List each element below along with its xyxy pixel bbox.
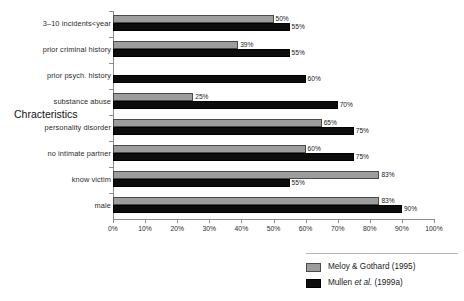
bar <box>113 23 290 31</box>
legend-separator <box>306 253 458 254</box>
value-tick <box>434 219 435 223</box>
bar <box>113 93 193 101</box>
legend-label: Meloy & Gothard (1995) <box>328 262 415 272</box>
bar-value-label: 60% <box>308 145 321 153</box>
bar-value-label: 90% <box>404 205 417 213</box>
value-tick-label: 70% <box>323 225 353 233</box>
value-tick-label: 60% <box>291 225 321 233</box>
value-tick <box>241 219 242 223</box>
category-label: substance abuse <box>3 97 111 106</box>
category-label: prior criminal history <box>3 45 111 54</box>
bar <box>113 101 338 109</box>
value-tick <box>370 219 371 223</box>
bar-value-label: 39% <box>240 41 253 49</box>
value-tick <box>402 219 403 223</box>
chart-legend: Meloy & Gothard (1995)Mullen et al. (199… <box>306 259 464 291</box>
bar-value-label: 70% <box>340 101 353 109</box>
bar <box>113 197 379 205</box>
legend-swatch <box>306 263 321 272</box>
bar-group: 60%75% <box>113 141 434 167</box>
bar-group: 60% <box>113 63 434 89</box>
value-tick-label: 20% <box>162 225 192 233</box>
value-tick <box>177 219 178 223</box>
bar-value-label: 75% <box>356 153 369 161</box>
bar-value-label: 50% <box>276 15 289 23</box>
bar-value-label: 75% <box>356 127 369 135</box>
value-tick-label: 90% <box>387 225 417 233</box>
bar <box>113 127 354 135</box>
legend-swatch <box>306 279 321 288</box>
legend-item[interactable]: Mullen et al. (1999a) <box>306 275 464 291</box>
value-tick <box>274 219 275 223</box>
bar <box>113 41 238 49</box>
bar-group: 65%75% <box>113 115 434 141</box>
bar-group: 83%90% <box>113 193 434 219</box>
category-label: no intimate partner <box>3 149 111 158</box>
value-tick <box>209 219 210 223</box>
bar <box>113 15 274 23</box>
value-tick-label: 40% <box>226 225 256 233</box>
bar <box>113 171 379 179</box>
bar <box>113 179 290 187</box>
bar-value-label: 25% <box>195 93 208 101</box>
bar-value-label: 55% <box>292 49 305 57</box>
value-tick <box>338 219 339 223</box>
category-axis-title: Chracteristics <box>14 108 78 120</box>
bar-value-label: 65% <box>324 119 337 127</box>
value-tick-label: 50% <box>259 225 289 233</box>
value-tick <box>113 219 114 223</box>
bar-value-label: 60% <box>308 75 321 83</box>
bar-chart: 3–10 incidents<yearprior criminal histor… <box>0 0 464 301</box>
value-tick-label: 100% <box>419 225 449 233</box>
bar <box>113 75 306 83</box>
bar <box>113 119 322 127</box>
category-label: 3–10 incidents<year <box>3 19 111 28</box>
legend-item[interactable]: Meloy & Gothard (1995) <box>306 259 464 275</box>
value-tick <box>306 219 307 223</box>
bar <box>113 153 354 161</box>
value-tick-label: 10% <box>130 225 160 233</box>
legend-label: Mullen et al. (1999a) <box>328 278 403 288</box>
bar-value-label: 83% <box>381 197 394 205</box>
category-label: personality disorder <box>3 123 111 132</box>
bar-value-label: 55% <box>292 179 305 187</box>
bar <box>113 49 290 57</box>
value-tick-label: 0% <box>98 225 128 233</box>
bar-value-label: 83% <box>381 171 394 179</box>
category-label: male <box>3 201 111 210</box>
value-tick-label: 80% <box>355 225 385 233</box>
category-label: know victim <box>3 175 111 184</box>
bar-value-label: 55% <box>292 23 305 31</box>
bar-group: 39%55% <box>113 37 434 63</box>
value-tick-label: 30% <box>194 225 224 233</box>
value-tick <box>145 219 146 223</box>
plot-area: 50%55%39%55%60%25%70%65%75%60%75%83%55%8… <box>113 11 434 219</box>
bar-group: 25%70% <box>113 89 434 115</box>
bar <box>113 205 402 213</box>
bar <box>113 145 306 153</box>
category-label: prior psych. history <box>3 71 111 80</box>
bar-group: 83%55% <box>113 167 434 193</box>
bar-group: 50%55% <box>113 11 434 37</box>
